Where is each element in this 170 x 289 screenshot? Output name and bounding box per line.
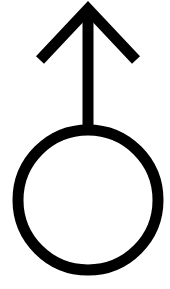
male-symbol-icon — [0, 0, 170, 289]
symbol-canvas: Male symbol (Mars) with upward arrow — [0, 0, 170, 289]
